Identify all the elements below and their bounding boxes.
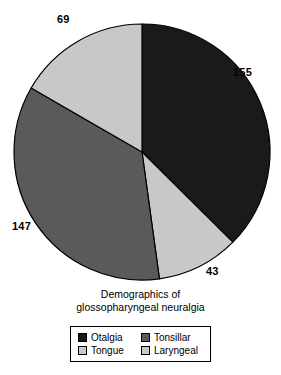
legend-swatch-tonsillar xyxy=(141,333,150,342)
pie-value-label-tongue: 43 xyxy=(206,266,219,277)
pie-value-label-laryngeal: 69 xyxy=(57,14,70,25)
legend-label-laryngeal: Laryngeal xyxy=(154,345,198,356)
pie-chart-figure: 69 155 147 43 Demographics of glossophar… xyxy=(0,0,281,375)
legend-item-tongue[interactable]: Tongue xyxy=(78,345,141,356)
chart-title-line-1: Demographics of xyxy=(0,288,281,301)
pie-slice-group xyxy=(14,24,270,280)
pie-svg xyxy=(0,0,281,285)
legend-swatch-otalgia xyxy=(78,333,87,342)
legend-row: Tongue Laryngeal xyxy=(78,344,204,357)
chart-legend: Otalgia Tonsillar Tongue Laryngeal xyxy=(70,326,211,362)
legend-item-otalgia[interactable]: Otalgia xyxy=(78,332,141,343)
legend-item-tonsillar[interactable]: Tonsillar xyxy=(141,332,204,343)
legend-label-tongue: Tongue xyxy=(91,345,124,356)
chart-title: Demographics of glossopharyngeal neuralg… xyxy=(0,288,281,314)
pie-value-label-tonsillar: 147 xyxy=(12,221,31,232)
pie-plot-area: 69 155 147 43 xyxy=(0,0,281,285)
legend-label-tonsillar: Tonsillar xyxy=(154,332,191,343)
legend-label-otalgia: Otalgia xyxy=(91,332,123,343)
legend-item-laryngeal[interactable]: Laryngeal xyxy=(141,345,204,356)
legend-row: Otalgia Tonsillar xyxy=(78,331,204,344)
chart-title-line-2: glossopharyngeal neuralgia xyxy=(0,301,281,314)
pie-value-label-otalgia: 155 xyxy=(233,67,252,78)
legend-swatch-laryngeal xyxy=(141,346,150,355)
legend-swatch-tongue xyxy=(78,346,87,355)
